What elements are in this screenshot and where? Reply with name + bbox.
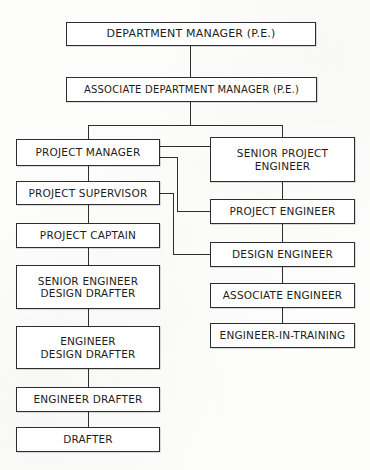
connector-ps-to-de-h2 — [173, 254, 210, 255]
connector-ed-to-drafter — [88, 412, 89, 428]
org-node-project-supervisor[interactable]: PROJECT SUPERVISOR — [16, 181, 160, 205]
org-node-project-captain[interactable]: PROJECT CAPTAIN — [16, 223, 160, 248]
connector-ps-to-de-v — [173, 193, 174, 255]
connector-spe-to-pe — [282, 182, 283, 200]
org-node-project-manager[interactable]: PROJECT MANAGER — [16, 139, 160, 166]
org-node-label: PROJECT SUPERVISOR — [29, 187, 148, 199]
connector-pm-to-ps — [88, 166, 89, 182]
connector-pc-to-sedd — [88, 248, 89, 266]
connector-pm-to-spe — [160, 146, 210, 147]
connector-sedd-to-edd — [88, 309, 89, 327]
org-node-associate-department-manager[interactable]: ASSOCIATE DEPARTMENT MANAGER (P.E.) — [66, 77, 317, 102]
connector-bus-to-senior-project-engineer — [282, 125, 283, 137]
org-node-label: DEPARTMENT MANAGER (P.E.) — [107, 28, 276, 41]
org-node-design-engineer[interactable]: DESIGN ENGINEER — [210, 242, 355, 267]
org-node-senior-engineer-design-drafter[interactable]: SENIOR ENGINEERDESIGN DRAFTER — [16, 265, 160, 309]
connector-ps-to-pc — [88, 205, 89, 224]
org-node-engineer-design-drafter[interactable]: ENGINEERDESIGN DRAFTER — [16, 326, 160, 369]
org-node-associate-engineer[interactable]: ASSOCIATE ENGINEER — [210, 283, 355, 308]
org-node-project-engineer[interactable]: PROJECT ENGINEER — [210, 199, 355, 224]
org-node-label: DRAFTER — [63, 433, 113, 445]
org-node-label: ENGINEER — [255, 160, 311, 172]
org-node-engineer-in-training[interactable]: ENGINEER-IN-TRAINING — [210, 323, 355, 348]
connector-de-to-ae — [282, 267, 283, 284]
connector-pm-to-pe-v — [177, 157, 178, 212]
connector-pm-to-pe-h2 — [177, 211, 210, 212]
connector-bus-to-project-manager — [88, 125, 89, 139]
org-node-label: PROJECT MANAGER — [36, 146, 141, 158]
connector-adm-down-stub — [190, 102, 191, 126]
connector-pm-to-pe-h1 — [160, 157, 178, 158]
org-node-label: PROJECT ENGINEER — [229, 205, 335, 217]
connector-ae-to-eit — [282, 308, 283, 324]
org-node-senior-project-engineer[interactable]: SENIOR PROJECTENGINEER — [210, 137, 355, 182]
connector-ps-to-de-h1 — [160, 193, 174, 194]
org-node-label: ENGINEER DRAFTER — [33, 393, 142, 405]
connector-edd-to-ed — [88, 369, 89, 388]
org-node-label: DESIGN DRAFTER — [41, 348, 136, 360]
connector-level2-bus — [88, 125, 283, 126]
org-node-label: ENGINEER-IN-TRAINING — [220, 329, 346, 341]
org-node-label: ASSOCIATE DEPARTMENT MANAGER (P.E.) — [84, 84, 299, 96]
org-node-label: ASSOCIATE ENGINEER — [223, 289, 343, 301]
org-node-label: PROJECT CAPTAIN — [40, 229, 136, 241]
connector-dm-to-adm — [190, 46, 191, 77]
org-node-label: SENIOR PROJECT — [237, 147, 328, 159]
org-chart: DEPARTMENT MANAGER (P.E.)ASSOCIATE DEPAR… — [0, 0, 370, 470]
org-node-department-manager[interactable]: DEPARTMENT MANAGER (P.E.) — [66, 22, 316, 46]
org-node-engineer-drafter[interactable]: ENGINEER DRAFTER — [16, 387, 160, 412]
connector-pe-to-de — [282, 224, 283, 243]
org-node-label: SENIOR ENGINEER — [38, 275, 138, 287]
org-node-label: DESIGN ENGINEER — [232, 248, 333, 260]
org-node-drafter[interactable]: DRAFTER — [16, 427, 160, 452]
org-node-label: ENGINEER — [60, 335, 116, 347]
org-node-label: DESIGN DRAFTER — [41, 287, 136, 299]
